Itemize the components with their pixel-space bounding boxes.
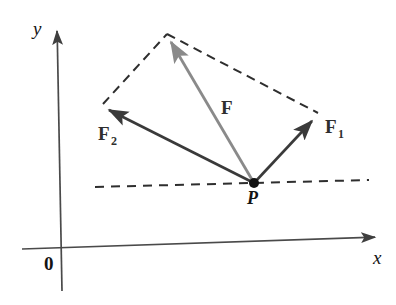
point-P-group	[249, 178, 259, 188]
parallelogram-edge-left-line	[103, 34, 167, 104]
x-axis-label: x	[372, 247, 382, 268]
y-axis-line	[57, 33, 62, 291]
vector-diagram-canvas: y x 0 P F 1 F 2 F	[0, 0, 396, 305]
vector-F1-label: F	[325, 116, 337, 137]
y-axis-label: y	[31, 18, 42, 39]
vectors-group	[109, 42, 312, 183]
vector-F1-label-subscript: 1	[338, 127, 344, 141]
origin-label: 0	[44, 253, 54, 274]
x-axis-line	[22, 237, 375, 249]
point-P-label: P	[246, 188, 259, 208]
axes-group	[22, 31, 375, 291]
horizontal-reference-line	[95, 180, 369, 187]
vector-F2-label-subscript: 2	[111, 134, 117, 148]
vector-F2-label: F	[98, 123, 110, 144]
vector-F1-arrow	[254, 121, 312, 183]
vector-F-resultant-label: F	[221, 97, 233, 118]
labels-group: y x 0 P F 1 F 2 F	[31, 18, 382, 274]
vector-diagram-figure: y x 0 P F 1 F 2 F	[0, 0, 396, 305]
point-P-dot	[249, 178, 259, 188]
